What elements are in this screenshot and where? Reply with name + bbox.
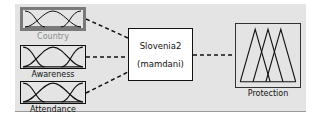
fis-system-name: Slovenia2 <box>129 41 192 51</box>
input-awareness-label: Awareness <box>20 70 86 79</box>
input-attendance-box[interactable] <box>20 81 86 104</box>
fis-system-box[interactable]: Slovenia2 (mamdani) <box>128 28 193 81</box>
membership-functions-icon <box>236 24 300 87</box>
input-attendance-label: Attendance <box>20 105 86 114</box>
membership-functions-icon <box>21 46 85 68</box>
fis-system-type: (mamdani) <box>129 59 192 69</box>
output-protection-box[interactable] <box>235 23 301 88</box>
input-awareness-box[interactable] <box>20 45 86 69</box>
membership-functions-icon <box>23 10 83 28</box>
output-protection-label: Protection <box>235 89 301 98</box>
input-country-label: Country <box>20 32 86 41</box>
membership-functions-icon <box>21 82 85 103</box>
input-country-box[interactable] <box>20 7 86 31</box>
